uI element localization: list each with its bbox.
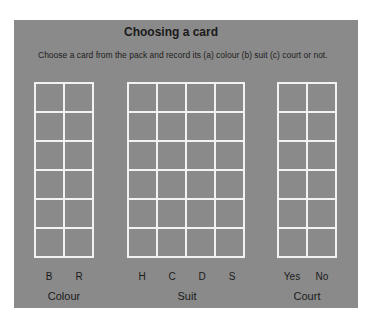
- court-tally-grid[interactable]: [277, 82, 337, 258]
- column-label-yes: Yes: [277, 271, 307, 282]
- column-label-no: No: [307, 271, 337, 282]
- group-label-suit: Suit: [127, 290, 247, 302]
- title-text: Choosing a card: [124, 25, 218, 39]
- column-label-r: R: [64, 271, 94, 282]
- column-label-h: H: [127, 271, 157, 282]
- colour-tally-grid[interactable]: [34, 82, 94, 258]
- column-label-d: D: [187, 271, 217, 282]
- group-label-court: Court: [277, 290, 337, 302]
- column-label-c: C: [157, 271, 187, 282]
- column-label-b: B: [34, 271, 64, 282]
- instruction-text: Choose a card from the pack and record i…: [38, 50, 328, 60]
- suit-tally-grid[interactable]: [127, 82, 245, 258]
- group-label-colour: Colour: [34, 290, 94, 302]
- page-title: Choosing a card: [14, 25, 358, 39]
- worksheet-panel: Choosing a card Choose a card from the p…: [14, 20, 358, 308]
- column-label-s: S: [217, 271, 247, 282]
